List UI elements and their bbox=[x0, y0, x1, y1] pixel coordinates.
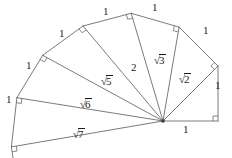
radius-length-label-3: 2 bbox=[131, 62, 137, 73]
radius-segment-4 bbox=[83, 26, 163, 121]
hub-vertex-dot bbox=[161, 119, 165, 123]
radius-length-label-5: √6 bbox=[79, 98, 92, 110]
unit-length-label-2: 1 bbox=[152, 2, 158, 13]
right-angle-marker-4 bbox=[79, 29, 86, 33]
unit-length-label-1: 1 bbox=[203, 25, 209, 36]
right-angle-marker-1 bbox=[211, 62, 215, 69]
geometry-group bbox=[11, 13, 218, 158]
unit-length-label-4: 1 bbox=[59, 28, 65, 39]
tail-segment bbox=[11, 147, 13, 158]
radius-segment-last bbox=[11, 121, 163, 147]
unit-length-label-6: 1 bbox=[6, 94, 12, 105]
unit-length-label-5: 1 bbox=[26, 60, 32, 71]
radius-length-label-6: √7 bbox=[72, 128, 85, 140]
radius-length-label-1: √2 bbox=[178, 73, 191, 85]
unit-leg-2 bbox=[131, 13, 179, 27]
unit-length-label-0: 1 bbox=[215, 80, 221, 91]
radius-length-label-2: √3 bbox=[153, 54, 166, 66]
diagram-canvas: 1√2√32√5√6√71111111 bbox=[0, 0, 232, 158]
unit-length-label-3: 1 bbox=[103, 6, 109, 17]
spiral-of-theodorus-svg bbox=[0, 0, 232, 158]
radius-length-label-4: √5 bbox=[100, 75, 113, 87]
radius-length-label-0: 1 bbox=[183, 124, 189, 135]
unit-leg-1 bbox=[179, 27, 218, 66]
right-angle-marker-0 bbox=[213, 116, 218, 121]
unit-leg-6 bbox=[11, 98, 17, 147]
